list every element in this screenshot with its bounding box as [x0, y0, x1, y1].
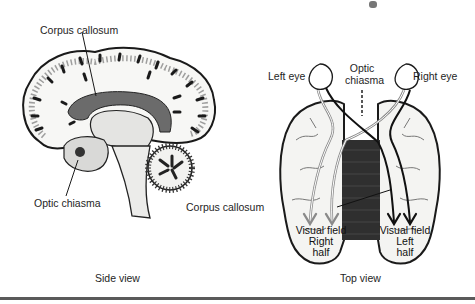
label-left-eye: Left eye	[268, 70, 305, 82]
visual-field-left-half: Visual field Left half	[374, 225, 436, 258]
visual-field-right-half: Visual field Right half	[290, 225, 352, 258]
diagram-artwork	[0, 0, 475, 304]
scan-artifact	[369, 1, 377, 8]
side-view-brain	[23, 32, 215, 218]
label-optic-chiasma-side: Optic chiasma	[34, 197, 101, 209]
label-optic-chiasma-top: Optic chiasma	[345, 62, 379, 86]
bottom-divider	[0, 297, 475, 300]
visual-field-left-line3: half	[374, 247, 436, 258]
label-corpus-callosum-side: Corpus callosum	[40, 24, 118, 36]
visual-field-right-line3: half	[290, 247, 352, 258]
label-optic-chiasma-line1: Optic	[345, 62, 379, 74]
label-corpus-callosum-top: Corpus callosum	[186, 201, 264, 213]
label-right-eye: Right eye	[413, 70, 457, 82]
caption-side-view: Side view	[95, 272, 140, 284]
label-optic-chiasma-line2: chiasma	[345, 74, 379, 86]
split-brain-diagram: Corpus callosum Optic chiasma Side view …	[0, 0, 475, 304]
caption-top-view: Top view	[340, 272, 381, 284]
